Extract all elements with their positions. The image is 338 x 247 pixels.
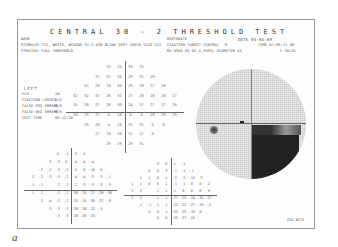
grid-cell: -3 xyxy=(54,214,63,218)
grid-cell: 31 xyxy=(136,142,147,146)
grid-cell: -30 xyxy=(88,199,97,203)
grid-cell: 29 xyxy=(114,142,125,146)
grid-cell: -3 xyxy=(54,160,63,164)
grid-cell: 28 xyxy=(158,94,169,98)
grid-cell: -5 xyxy=(71,168,80,172)
grid-cell: 32 xyxy=(70,94,81,98)
grid-cell: 28 xyxy=(147,113,158,117)
grid-cell: -2 xyxy=(62,199,71,203)
grid-cell: -2 xyxy=(37,168,46,172)
grid-cell: -3 xyxy=(54,207,63,211)
grid-cell: -2 xyxy=(62,168,71,172)
grid-cell: -22 xyxy=(171,203,180,207)
grid-cell: 0 xyxy=(196,182,205,186)
grid-cell: 1 xyxy=(162,189,171,193)
grayscale-v-axis xyxy=(251,69,252,179)
grid-cell: -3 xyxy=(45,175,54,179)
grid-cell: -1 xyxy=(62,152,71,156)
grid-cell: 0 xyxy=(103,113,114,117)
grid-cell: -25 xyxy=(79,199,88,203)
grid-cell: 29 xyxy=(147,75,158,79)
eye-label: LEFT xyxy=(24,86,38,91)
grid-cell: -5 xyxy=(179,176,188,180)
grid-cell: -3 xyxy=(71,152,80,156)
grid-cell: 1 xyxy=(162,210,171,214)
grid-cell: 32 xyxy=(92,94,103,98)
grid-cell: 26 xyxy=(103,94,114,98)
grid-v-axis xyxy=(125,61,126,153)
grid-cell: 29 xyxy=(169,103,180,107)
grid-cell: 26 xyxy=(114,113,125,117)
grid-cell: -25 xyxy=(196,196,205,200)
grid-cell: 27 xyxy=(147,103,158,107)
reliability-value: 0/0 xyxy=(55,110,62,114)
grid-cell: 29 xyxy=(81,123,92,127)
grid-cell: 32 xyxy=(81,94,92,98)
grid-cell: 0 xyxy=(162,216,171,220)
test-time: TIME 07:09:11 AM xyxy=(258,43,294,47)
grid-cell: 30 xyxy=(70,113,81,117)
grid-cell: 25 xyxy=(103,65,114,69)
grid-cell: 0 xyxy=(62,160,71,164)
grid-cell: 28 xyxy=(103,132,114,136)
grid-cell: -8 xyxy=(79,168,88,172)
birthdate-label: BIRTHDATE xyxy=(167,37,187,41)
test-date: DATE 04-03-09 xyxy=(238,37,272,42)
grid-cell: -16 xyxy=(88,168,97,172)
reliability-value: IN xyxy=(55,92,60,96)
grid-cell: 28 xyxy=(103,84,114,88)
grid-cell: 26 xyxy=(114,123,125,127)
reliability-label: FALSE NEG ERRORS xyxy=(22,110,58,114)
grid-cell: -1 xyxy=(28,183,37,187)
grid-cell: -3 xyxy=(54,168,63,172)
grid-cell: -4 xyxy=(88,160,97,164)
grid-cell: 25 xyxy=(136,65,147,69)
grid-cell: 28 xyxy=(136,84,147,88)
grid-cell: 1 xyxy=(171,162,180,166)
grid-cell: -1 xyxy=(179,169,188,173)
grid-cell: 1 xyxy=(162,176,171,180)
grid-cell: -2 xyxy=(54,199,63,203)
grid-cell: -3 xyxy=(96,207,105,211)
grid-cell: -2 xyxy=(45,168,54,172)
grid-cell: 0 xyxy=(196,210,205,214)
grid-cell: 29 xyxy=(125,84,136,88)
grid-cell: 1 xyxy=(162,203,171,207)
grid-cell: -2 xyxy=(54,191,63,195)
grid-cell: 6 xyxy=(125,113,136,117)
grid-cell: -2 xyxy=(37,199,46,203)
grid-cell: 29 xyxy=(103,142,114,146)
grid-cell: -3 xyxy=(96,183,105,187)
grid-cell: 28 xyxy=(136,94,147,98)
grid-cell: 30 xyxy=(81,103,92,107)
grid-cell: -2 xyxy=(37,175,46,179)
grid-cell: 29 xyxy=(92,84,103,88)
grid-cell: -2 xyxy=(54,183,63,187)
grid-cell: -28 xyxy=(96,191,105,195)
grid-cell: 0 xyxy=(154,182,163,186)
grid-cell: 0 xyxy=(136,113,147,117)
grid-cell: -27 xyxy=(88,191,97,195)
grid-cell: 29 xyxy=(125,75,136,79)
reliability-value: 0/0 xyxy=(55,104,62,108)
grid-cell: 24 xyxy=(125,103,136,107)
grid-cell: 1 xyxy=(154,196,163,200)
grid-cell: -8 xyxy=(105,199,114,203)
grid-cell: -3 xyxy=(105,183,114,187)
grid-cell: -30 xyxy=(79,214,88,218)
grid-cell: 31 xyxy=(81,84,92,88)
grid-cell: -4 xyxy=(71,175,80,179)
grid-cell: 29 xyxy=(125,142,136,146)
grid-cell: -2 xyxy=(28,175,37,179)
reliability-label: FIXATION LOSSES xyxy=(22,98,56,102)
grid-cell: -22 xyxy=(179,196,188,200)
grid-cell: -22 xyxy=(88,207,97,211)
grid-cell: 0 xyxy=(147,123,158,127)
grid-cell: 0 xyxy=(54,152,63,156)
grid-cell: -27 xyxy=(188,203,197,207)
grid-cell: 27 xyxy=(92,113,103,117)
total-deviation-grid: 0-1-3-5-3-30-4-4-4-2-2-3-2-5-8-16-6-2-2-… xyxy=(28,152,113,224)
grid-cell: 2 xyxy=(128,189,137,193)
reliability-label: FALSE POS ERRORS xyxy=(22,104,58,108)
grid-cell: 30 xyxy=(114,103,125,107)
